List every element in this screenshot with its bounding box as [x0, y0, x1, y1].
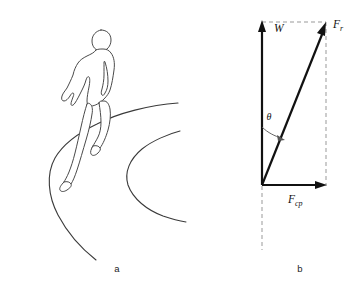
centripetal-force-vector	[262, 181, 327, 189]
runner-front-leg	[63, 103, 93, 188]
resultant-force-vector-label: Fr	[332, 18, 344, 33]
track-inner-curve	[127, 131, 186, 222]
resultant-force-vector	[262, 22, 326, 185]
panel-a-group: a	[49, 30, 186, 274]
weight-vector	[258, 20, 266, 185]
runner-head	[92, 30, 111, 51]
weight-vector-label: W	[274, 22, 285, 34]
resultant-force-label-sub: r	[340, 24, 344, 33]
svg-text:θ: θ	[267, 111, 272, 122]
runner-rear-foot	[91, 146, 101, 156]
panel-b-group: θ W Fr Fcp b	[258, 18, 344, 274]
runner-front-foot	[60, 182, 72, 192]
figure-root: a	[0, 0, 361, 294]
runner-figure	[60, 30, 115, 192]
centripetal-force-label-sub: cp	[295, 199, 303, 208]
centripetal-force-vector-label: Fcp	[287, 193, 303, 208]
runner-rear-leg	[92, 101, 111, 152]
panel-a-label: a	[114, 263, 120, 274]
physics-figure: a	[0, 0, 361, 294]
panel-b-label: b	[297, 263, 302, 274]
